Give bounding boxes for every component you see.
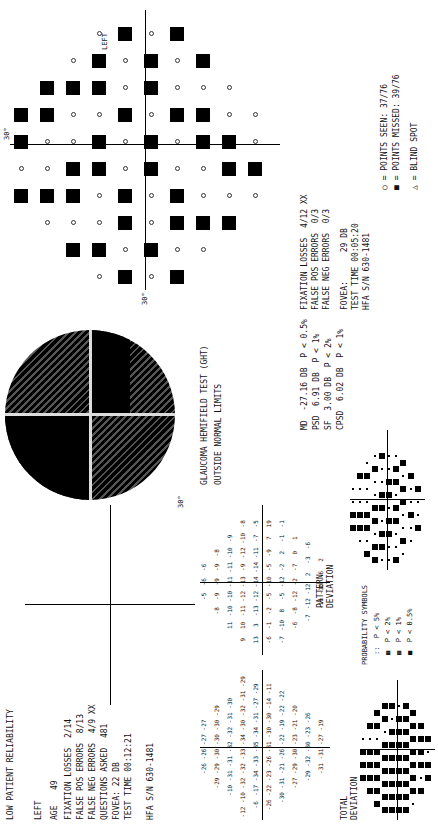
probability-symbol xyxy=(418,788,424,794)
point-missed xyxy=(144,135,158,149)
right-fovea: FOVEA: 29 DB xyxy=(340,228,350,310)
probability-symbol xyxy=(382,704,388,710)
probability-symbol xyxy=(379,454,385,460)
point-missed xyxy=(144,54,158,68)
grid-value: -30 xyxy=(304,739,311,755)
probability-symbol xyxy=(386,493,392,499)
point-seen xyxy=(175,166,180,171)
probability-symbol xyxy=(382,717,388,723)
grid-value: -27 xyxy=(317,732,324,748)
grid-value: -1 xyxy=(265,617,272,633)
grid-value: -35 xyxy=(252,739,259,755)
probability-symbol xyxy=(357,512,363,518)
point-seen xyxy=(201,247,206,252)
point-seen xyxy=(71,139,76,144)
grid-value: -27 xyxy=(252,695,259,711)
grid-value: -23 xyxy=(265,768,272,784)
point-seen xyxy=(175,85,180,90)
grid-value: -31 xyxy=(226,753,233,769)
grid-value: -31 xyxy=(226,768,233,784)
grid-value: -1 xyxy=(278,516,285,532)
probability-symbol xyxy=(425,775,431,781)
grid-value: -14 xyxy=(265,695,272,711)
probability-symbol xyxy=(410,749,416,755)
ght-title: GLAUCOMA HEMIFIELD TEST (GHT) xyxy=(200,345,210,485)
point-missed xyxy=(92,135,106,149)
probability-symbol xyxy=(364,512,370,518)
grid-value: 9 xyxy=(239,632,246,648)
grid-value: -12 xyxy=(304,596,311,612)
point-seen xyxy=(45,220,50,225)
point-seen xyxy=(71,220,76,225)
grid-value: -32 xyxy=(226,724,233,740)
probability-symbol xyxy=(388,456,390,458)
probability-symbol xyxy=(382,743,388,749)
grid-value: -34 xyxy=(252,724,259,740)
point-seen xyxy=(201,193,206,198)
right-false-neg: FALSE NEG ERRORS 0/3 xyxy=(322,209,332,310)
probability-symbol xyxy=(403,717,409,723)
grid-value: 7 xyxy=(265,530,272,546)
probability-symbol xyxy=(395,534,397,536)
probability-symbol xyxy=(374,723,380,729)
probability-symbol xyxy=(417,514,419,516)
grid-value: -9 xyxy=(213,588,220,604)
point-seen xyxy=(253,139,258,144)
probability-symbol xyxy=(418,736,424,742)
pattern-deviation-grid: -5-6-6-8-9-9-9-811-10-10-11-11-10-9910-1… xyxy=(200,505,330,655)
grid-value: -10 xyxy=(278,617,285,633)
point-missed xyxy=(66,162,80,176)
point-missed xyxy=(248,162,262,176)
grid-value: -8 xyxy=(239,516,246,532)
point-missed xyxy=(14,189,28,203)
age-value: 49 xyxy=(50,780,60,790)
probability-symbol xyxy=(367,775,373,781)
grid-value: -12 xyxy=(239,588,246,604)
reliability-note: LOW PATIENT RELIABILITY xyxy=(6,709,16,820)
gray-scale-plot xyxy=(5,330,175,500)
probability-symbol xyxy=(403,730,409,736)
grid-value: -31 xyxy=(252,710,259,726)
point-missed xyxy=(118,108,132,122)
grid-value: -32 xyxy=(226,739,233,755)
probability-symbol xyxy=(386,532,392,538)
probability-symbol xyxy=(376,738,378,740)
probability-symbol xyxy=(400,499,406,505)
point-seen xyxy=(45,139,50,144)
grid-value: 1 xyxy=(291,530,298,546)
grid-value: -10 xyxy=(265,574,272,590)
grid-value: -6 xyxy=(304,538,311,554)
grid-value: -32 xyxy=(239,775,246,791)
probability-symbol xyxy=(359,488,361,490)
probability-symbol xyxy=(382,769,388,775)
probability-symbol xyxy=(389,756,395,762)
probability-symbol xyxy=(367,723,373,729)
point-missed xyxy=(14,108,28,122)
legend-points-seen: ○ = POINTS SEEN: 37/76 xyxy=(380,84,390,190)
point-missed xyxy=(40,189,54,203)
probability-symbol xyxy=(408,512,414,518)
probability-symbol xyxy=(396,756,402,762)
grid-value: -10 xyxy=(239,530,246,546)
grid-value: -26 xyxy=(200,746,207,762)
grid-value: -29 xyxy=(252,681,259,697)
probability-symbol xyxy=(410,540,412,542)
grid-value: -30 xyxy=(265,710,272,726)
point-missed xyxy=(144,243,158,257)
probability-symbol xyxy=(367,788,373,794)
index-sf: SF 3.00 DB P < 2% xyxy=(324,338,334,430)
probability-symbol xyxy=(359,501,361,503)
point-missed xyxy=(196,108,210,122)
probability-symbol xyxy=(393,519,399,525)
probability-symbol xyxy=(372,558,378,564)
probability-symbol xyxy=(395,547,397,549)
probability-symbol xyxy=(388,469,390,471)
point-seen xyxy=(201,85,206,90)
point-seen xyxy=(123,166,128,171)
grid-value: -14 xyxy=(252,559,259,575)
grid-value: -5 xyxy=(252,516,259,532)
total-deviation-label: TOTAL DEVIATION xyxy=(340,777,360,820)
grid-value: -6 xyxy=(291,617,298,633)
probability-symbol xyxy=(418,723,424,729)
grid-value: -31 xyxy=(226,710,233,726)
